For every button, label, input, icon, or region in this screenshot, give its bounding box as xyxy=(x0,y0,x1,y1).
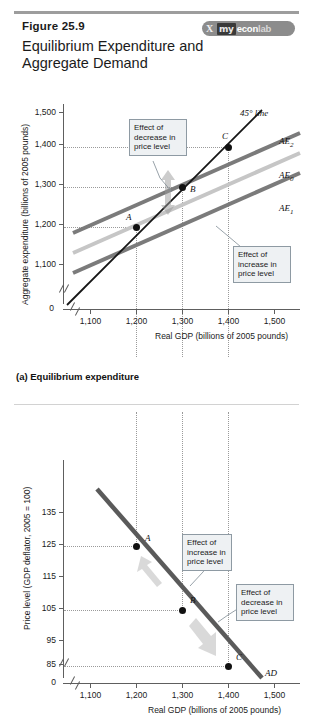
panel-b-ylabel-115: 115 xyxy=(30,571,56,581)
panel-b-ylabel-135: 135 xyxy=(30,507,56,517)
panel-b-xtick-1500 xyxy=(274,684,275,688)
panel-b-vguide-1300 xyxy=(182,412,183,610)
panel-b-xtick-1400 xyxy=(228,684,229,688)
panel-b-ytick-105 xyxy=(59,608,63,609)
panel-b-point-c-label: C xyxy=(236,652,242,662)
panel-b-callout-decrease: Effect of decrease in price level xyxy=(236,584,294,621)
panel-b-xlabel-1300: 1,300 xyxy=(164,690,201,700)
panel-b-arrow-increase xyxy=(137,556,162,587)
panel-b-ytick-125 xyxy=(59,544,63,545)
panel-b-xtick-1300 xyxy=(182,684,183,688)
panel-b-xtick-1200 xyxy=(136,684,137,688)
panel-b-xtick-1100 xyxy=(90,684,91,688)
panel-b-ylabel-95: 95 xyxy=(30,635,56,645)
panel-b-ytick-85 xyxy=(59,664,63,665)
panel-b-xlabel-1100: 1,100 xyxy=(72,690,109,700)
chart-panel-b: Price level (GDP deflator, 2005 = 100) 1… xyxy=(0,0,311,722)
panel-b-callout-increase: Effect of increase in price level xyxy=(182,534,232,571)
panel-b-arrow-decrease xyxy=(189,618,216,656)
panel-b-x-axis-title: Real GDP (billions of 2005 pounds) xyxy=(148,705,281,715)
panel-b-xlabel-1200: 1,200 xyxy=(118,690,155,700)
panel-b-guide-125 xyxy=(64,546,136,547)
panel-b-point-a xyxy=(133,543,140,550)
panel-b-ylabel-85: 85 xyxy=(30,659,56,669)
panel-b-ytick-115 xyxy=(59,576,63,577)
panel-b-guide-105 xyxy=(64,610,182,611)
panel-b-label-ad: AD xyxy=(265,668,277,678)
panel-b-ylabel-125: 125 xyxy=(30,539,56,549)
panel-b-ytick-95 xyxy=(59,640,63,641)
panel-b-ytick-135 xyxy=(59,512,63,513)
panel-b-y-axis xyxy=(63,460,64,678)
panel-b-origin-label: 0 xyxy=(42,677,56,687)
panel-b-vguide-1200 xyxy=(136,412,137,546)
panel-b-point-b xyxy=(179,607,186,614)
panel-b-ylabel-105: 105 xyxy=(30,603,56,613)
panel-b-guide-85 xyxy=(64,666,228,667)
panel-b-point-c xyxy=(225,663,232,670)
panel-b-point-b-label: B xyxy=(190,595,196,605)
panel-b-xlabel-1400: 1,400 xyxy=(210,690,247,700)
panel-b-point-a-label: A xyxy=(145,533,151,543)
panel-b-xlabel-1500: 1,500 xyxy=(256,690,293,700)
